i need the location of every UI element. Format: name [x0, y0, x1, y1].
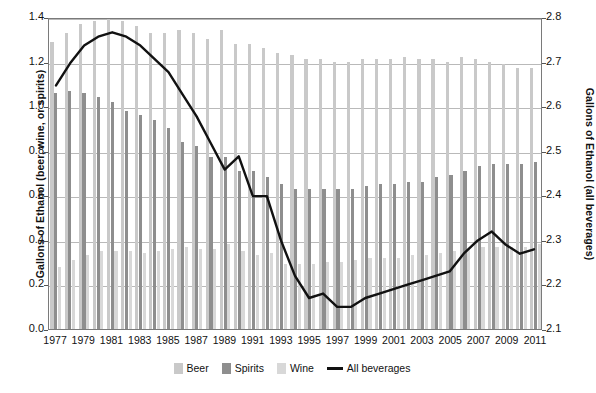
legend-label: All beverages: [347, 362, 411, 374]
bar-beer: [304, 59, 307, 329]
y-axis-left-tick-label: 0.0: [10, 322, 44, 334]
bar-beer: [502, 64, 505, 329]
tick-mark: [542, 63, 546, 64]
bar-beer: [50, 42, 53, 329]
bar-spirits: [308, 189, 311, 329]
bar-spirits: [322, 189, 325, 329]
plot-area: [48, 18, 542, 330]
bar-spirits: [139, 115, 142, 329]
bar-wine: [538, 244, 541, 329]
bar-wine: [340, 262, 343, 329]
bar-beer: [333, 62, 336, 329]
tick-mark: [44, 330, 48, 331]
bar-beer: [474, 59, 477, 329]
bar-wine: [171, 249, 174, 329]
legend-item-wine[interactable]: Wine: [277, 362, 314, 374]
bar-wine: [58, 267, 61, 329]
bar-spirits: [534, 162, 537, 329]
bar-beer: [488, 62, 491, 329]
x-axis-tick-label: 2011: [515, 334, 555, 346]
bar-beer: [290, 55, 293, 329]
bar-series-group: [49, 19, 541, 329]
bar-beer: [403, 57, 406, 329]
y-axis-right-title: Gallons of Ethanol (all beverages): [584, 24, 596, 324]
bar-wine: [439, 253, 442, 329]
bar-wine: [256, 255, 259, 329]
bar-wine: [72, 260, 75, 329]
bar-spirits: [153, 120, 156, 329]
bar-wine: [453, 251, 456, 329]
bar-spirits: [449, 175, 452, 329]
y-axis-right-tick-label: 2.3: [546, 233, 580, 245]
bar-beer: [149, 33, 152, 329]
legend-item-spirits[interactable]: Spirits: [222, 362, 264, 374]
bar-beer: [417, 59, 420, 329]
bar-wine: [411, 255, 414, 329]
tick-mark: [542, 241, 546, 242]
y-axis-right-tick-label: 2.1: [546, 322, 580, 334]
bar-spirits: [224, 157, 227, 329]
bar-spirits: [351, 189, 354, 329]
y-axis-right-tick-label: 2.5: [546, 144, 580, 156]
legend-item-line[interactable]: All beverages: [327, 362, 411, 374]
y-axis-right-tick-label: 2.8: [546, 10, 580, 22]
bar-spirits: [520, 164, 523, 329]
bar-wine: [481, 247, 484, 329]
bar-wine: [185, 247, 188, 329]
bar-beer: [431, 59, 434, 329]
bar-wine: [270, 253, 273, 329]
y-axis-left-tick-label: 1.2: [10, 55, 44, 67]
bar-beer: [530, 68, 533, 329]
bar-beer: [65, 33, 68, 329]
bar-wine: [524, 247, 527, 329]
bar-wine: [298, 264, 301, 329]
y-axis-right-tick-label: 2.6: [546, 99, 580, 111]
bar-wine: [312, 264, 315, 329]
bar-spirits: [125, 111, 128, 329]
y-axis-left-tick-label: 1.4: [10, 10, 44, 22]
y-axis-left-tick-label: 0.6: [10, 188, 44, 200]
bar-beer: [93, 21, 96, 329]
bar-beer: [460, 57, 463, 329]
tick-mark: [542, 18, 546, 19]
bar-spirits: [181, 142, 184, 329]
y-axis-left-tick-label: 1.0: [10, 99, 44, 111]
bar-beer: [347, 62, 350, 329]
bar-spirits: [379, 184, 382, 329]
y-axis-right-tick-label: 2.7: [546, 55, 580, 67]
bar-spirits: [435, 177, 438, 329]
y-axis-left-tick-label: 0.2: [10, 277, 44, 289]
bar-spirits: [209, 157, 212, 329]
bar-wine: [383, 258, 386, 329]
tick-mark: [542, 330, 546, 331]
bar-wine: [368, 258, 371, 329]
bar-spirits: [336, 189, 339, 329]
y-axis-right-tick-label: 2.2: [546, 277, 580, 289]
bar-spirits: [294, 189, 297, 329]
bar-wine: [354, 260, 357, 329]
bar-wine: [284, 264, 287, 329]
bar-wine: [495, 247, 498, 329]
bar-beer: [121, 21, 124, 329]
tick-mark: [542, 285, 546, 286]
legend-item-beer[interactable]: Beer: [174, 362, 209, 374]
bar-spirits: [82, 93, 85, 329]
bar-wine: [326, 262, 329, 329]
bar-spirits: [463, 171, 466, 329]
bar-wine: [157, 251, 160, 329]
bar-spirits: [252, 171, 255, 329]
bar-wine: [129, 251, 132, 329]
bar-beer: [516, 68, 519, 329]
bar-beer: [389, 59, 392, 329]
bar-beer: [361, 59, 364, 329]
bar-beer: [107, 19, 110, 329]
bar-spirits: [54, 93, 57, 329]
bar-wine: [510, 247, 513, 329]
legend-label: Beer: [187, 362, 209, 374]
bar-wine: [213, 249, 216, 329]
bar-spirits: [365, 186, 368, 329]
bar-beer: [220, 30, 223, 329]
bar-beer: [135, 26, 138, 329]
bar-spirits: [280, 184, 283, 329]
